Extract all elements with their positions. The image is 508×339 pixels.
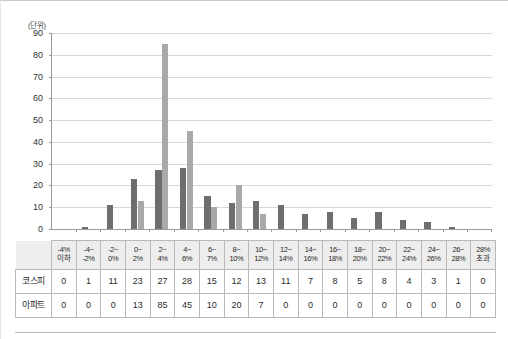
y-axis-tick-label: 10 xyxy=(3,203,43,212)
x-axis-tick-mark xyxy=(174,229,175,232)
bar-group xyxy=(321,33,345,229)
bar-group xyxy=(125,33,149,229)
table-cell-kospi: 11 xyxy=(273,270,298,294)
table-cell-apartment: 13 xyxy=(125,294,150,318)
x-axis-tick-mark xyxy=(418,229,419,232)
column-header-line-2: 20% xyxy=(348,255,372,264)
table-cell-apartment: 0 xyxy=(298,294,323,318)
table-cell-apartment: 0 xyxy=(446,294,471,318)
column-header-line-2: 0% xyxy=(101,255,125,264)
bar-kospi xyxy=(155,170,161,229)
column-header-line-2: 이하 xyxy=(52,255,76,264)
table-column-header: 26~28% xyxy=(446,241,471,270)
bar-group xyxy=(101,33,125,229)
table-cell-apartment: 0 xyxy=(471,294,496,318)
y-axis-tick-label: 20 xyxy=(3,181,43,190)
table-cell-apartment: 0 xyxy=(323,294,348,318)
y-axis-tick-label: 80 xyxy=(3,50,43,59)
table-cell-kospi: 27 xyxy=(150,270,175,294)
table-cell-apartment: 0 xyxy=(372,294,397,318)
bar-group xyxy=(150,33,174,229)
bar-kospi xyxy=(449,227,455,229)
data-table: -4%이하-4~-2%-2~0%0~2%2~4%4~6%6~7%8~10%10~… xyxy=(15,240,496,318)
bar-group xyxy=(394,33,418,229)
x-axis-tick-mark xyxy=(394,229,395,232)
bar-group xyxy=(419,33,443,229)
y-axis-tick-label: 60 xyxy=(3,94,43,103)
column-header-line-2: 10% xyxy=(225,255,249,264)
bar-kospi xyxy=(375,212,381,229)
table-cell-kospi: 3 xyxy=(421,270,446,294)
bar-apartment xyxy=(211,207,217,229)
column-header-line-2: 12% xyxy=(249,255,273,264)
x-axis-tick-mark xyxy=(296,229,297,232)
table-cell-kospi: 0 xyxy=(52,270,77,294)
x-axis-tick-mark xyxy=(345,229,346,232)
bar-kospi xyxy=(229,203,235,229)
column-header-line-2: 7% xyxy=(200,255,224,264)
column-header-line-2: 14% xyxy=(274,255,298,264)
table-column-header: 14~16% xyxy=(298,241,323,270)
y-axis-tick-label: 30 xyxy=(3,159,43,168)
y-axis-tick-label: 40 xyxy=(3,137,43,146)
table-column-header: 2~4% xyxy=(150,241,175,270)
row-label-kospi: 코스피 xyxy=(16,270,52,294)
table-column-header: 24~26% xyxy=(421,241,446,270)
bar-chart: (단위) 0102030405060708090 xyxy=(1,9,508,237)
y-axis-tick-mark xyxy=(49,229,52,230)
bar-kospi xyxy=(253,201,259,229)
table-column-header: 8~10% xyxy=(224,241,249,270)
x-axis-tick-mark xyxy=(198,229,199,232)
bar-group xyxy=(52,33,76,229)
bar-apartment xyxy=(236,185,242,229)
table-cell-kospi: 8 xyxy=(372,270,397,294)
y-axis-tick-labels: 0102030405060708090 xyxy=(1,33,47,229)
bar-kospi xyxy=(351,218,357,229)
table-row: 코스피 01112327281512131178584310 xyxy=(16,270,496,294)
x-axis-tick-mark xyxy=(247,229,248,232)
bar-kospi xyxy=(107,205,113,229)
figure-frame: (단위) 0102030405060708090 -4%이하-4~-2%-2~0… xyxy=(0,0,508,339)
bar-group xyxy=(370,33,394,229)
bar-apartment xyxy=(162,44,168,229)
bar-kospi xyxy=(327,212,333,229)
column-header-line-2: 4% xyxy=(151,255,175,264)
bar-group xyxy=(443,33,467,229)
table-cell-apartment: 7 xyxy=(249,294,274,318)
bar-kospi xyxy=(82,227,88,229)
column-header-line-2: 16% xyxy=(299,255,323,264)
table-cell-kospi: 12 xyxy=(224,270,249,294)
table-column-header: 28%초과 xyxy=(471,241,496,270)
data-table-wrapper: -4%이하-4~-2%-2~0%0~2%2~4%4~6%6~7%8~10%10~… xyxy=(15,240,496,328)
y-axis-tick-label: 70 xyxy=(3,72,43,81)
table-cell-apartment: 0 xyxy=(397,294,422,318)
table-column-header: 12~14% xyxy=(273,241,298,270)
table-cell-apartment: 0 xyxy=(347,294,372,318)
column-header-line-2: 28% xyxy=(447,255,471,264)
column-header-line-2: 22% xyxy=(373,255,397,264)
bar-group xyxy=(468,33,492,229)
table-column-header: 22~24% xyxy=(397,241,422,270)
x-axis-tick-mark xyxy=(320,229,321,232)
table-column-header: -2~0% xyxy=(101,241,126,270)
bar-group xyxy=(296,33,320,229)
row-label-apartment: 아파트 xyxy=(16,294,52,318)
x-axis-tick-mark xyxy=(491,229,492,232)
bar-group xyxy=(272,33,296,229)
table-cell-apartment: 45 xyxy=(175,294,200,318)
table-cell-apartment: 10 xyxy=(199,294,224,318)
table-column-header: 18~20% xyxy=(347,241,372,270)
table-cell-kospi: 15 xyxy=(199,270,224,294)
table-cell-kospi: 28 xyxy=(175,270,200,294)
bar-group xyxy=(174,33,198,229)
x-axis-tick-mark xyxy=(369,229,370,232)
x-axis-tick-mark xyxy=(467,229,468,232)
table-column-header: 16~18% xyxy=(323,241,348,270)
table-head: -4%이하-4~-2%-2~0%0~2%2~4%4~6%6~7%8~10%10~… xyxy=(16,241,496,270)
table-cell-apartment: 0 xyxy=(421,294,446,318)
table-column-header: 6~7% xyxy=(199,241,224,270)
bar-apartment xyxy=(187,131,193,229)
bar-group xyxy=(199,33,223,229)
table-column-header: -4~-2% xyxy=(76,241,101,270)
x-axis-tick-mark xyxy=(271,229,272,232)
